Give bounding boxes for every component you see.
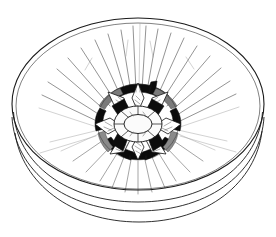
rosette-inner-ring	[114, 106, 162, 142]
bowl-illustration: Shallow bowl with central floral rosette…	[0, 0, 276, 237]
bowl-drawing-canvas	[0, 0, 276, 237]
